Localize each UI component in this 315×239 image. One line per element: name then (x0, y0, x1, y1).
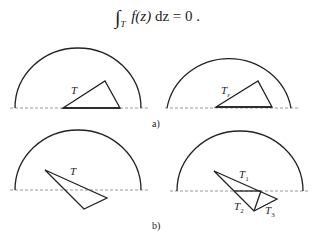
label-T-epsilon: Tε (221, 84, 230, 99)
label-T: T (70, 165, 76, 177)
panel-a-right (165, 59, 300, 108)
panel-a-left (10, 48, 148, 108)
upper-semicircle (15, 130, 141, 190)
caption-a: a) (152, 118, 160, 129)
caption-b: b) (152, 220, 160, 231)
label-T: T (71, 84, 77, 96)
label-T3: T3 (265, 204, 275, 219)
label-T1: T1 (239, 168, 249, 183)
panel-b-left (10, 130, 148, 209)
label-T2: T2 (234, 200, 244, 215)
